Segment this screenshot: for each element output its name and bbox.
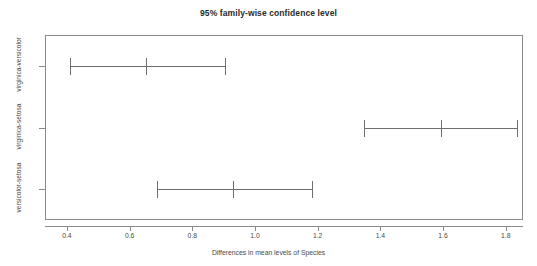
x-tick xyxy=(443,226,444,231)
y-category-label: versicolor-setosa xyxy=(15,148,22,228)
tukey-confidence-interval-chart: 95% family-wise confidence level virgini… xyxy=(0,0,537,266)
x-tick xyxy=(255,226,256,231)
chart-title: 95% family-wise confidence level xyxy=(0,8,537,18)
x-tick-label: 1.6 xyxy=(423,232,463,239)
x-tick xyxy=(380,226,381,231)
interval-lower-cap xyxy=(364,120,365,137)
interval-lower-cap xyxy=(157,181,158,198)
y-tick xyxy=(39,189,45,190)
x-axis-line xyxy=(45,226,523,227)
x-tick xyxy=(67,226,68,231)
interval-center-mark xyxy=(441,120,442,137)
x-tick-label: 1.8 xyxy=(486,232,526,239)
x-tick xyxy=(192,226,193,231)
x-tick-label: 1.0 xyxy=(235,232,275,239)
x-tick-label: 1.2 xyxy=(298,232,338,239)
interval-upper-cap xyxy=(225,58,226,75)
y-tick xyxy=(39,66,45,67)
x-tick-label: 0.4 xyxy=(47,232,87,239)
x-tick xyxy=(506,226,507,231)
x-tick xyxy=(130,226,131,231)
x-tick xyxy=(318,226,319,231)
y-tick xyxy=(39,128,45,129)
interval-line xyxy=(157,189,312,190)
interval-lower-cap xyxy=(70,58,71,75)
x-axis-title: Differences in mean levels of Species xyxy=(0,249,537,256)
interval-upper-cap xyxy=(517,120,518,137)
x-tick-label: 0.8 xyxy=(172,232,212,239)
interval-line xyxy=(70,66,225,67)
interval-center-mark xyxy=(233,181,234,198)
x-tick-label: 1.4 xyxy=(360,232,400,239)
x-tick-label: 0.6 xyxy=(110,232,150,239)
interval-upper-cap xyxy=(312,181,313,198)
interval-center-mark xyxy=(146,58,147,75)
